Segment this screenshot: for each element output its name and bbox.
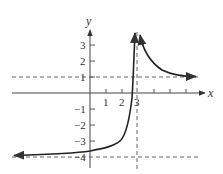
y-tick-label-2: 2 bbox=[80, 56, 86, 67]
x-tick-label-1: 1 bbox=[103, 97, 109, 108]
curve-right-branch bbox=[140, 35, 196, 77]
y-tick-label-minus3: −3 bbox=[74, 136, 86, 147]
y-axis-label: y bbox=[86, 15, 91, 27]
x-tick-label-2: 2 bbox=[119, 97, 125, 108]
function-graph bbox=[0, 0, 223, 174]
y-tick-label-minus1: −1 bbox=[74, 104, 86, 115]
x-tick-label-3: 3 bbox=[134, 97, 140, 108]
x-ticks bbox=[106, 89, 186, 93]
y-tick-label-minus2: −2 bbox=[74, 120, 86, 131]
x-axis-label: x bbox=[208, 87, 213, 99]
y-tick-label-3: 3 bbox=[80, 40, 86, 51]
y-tick-label-minus4: −4 bbox=[74, 152, 86, 163]
y-tick-label-1: 1 bbox=[80, 72, 86, 83]
